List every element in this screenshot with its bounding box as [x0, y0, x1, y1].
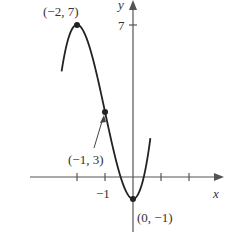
y-axis-label: y [116, 0, 124, 12]
x-axis-label: x [212, 186, 219, 201]
point-inflection [102, 109, 108, 115]
label-local-max: (−2, 7) [43, 4, 79, 19]
y-tick-label-7: 7 [118, 18, 125, 33]
function-graph: (−2, 7) (−1, 3) (0, −1) 7 −1 y x [0, 0, 230, 234]
label-inflection: (−1, 3) [68, 152, 104, 167]
label-local-min: (0, −1) [137, 210, 173, 225]
x-tick-label-neg1: −1 [96, 186, 110, 201]
point-local-max [74, 22, 80, 28]
point-local-min [130, 196, 136, 202]
y-axis-arrow-icon [129, 0, 137, 10]
x-axis-arrow-icon [214, 173, 224, 181]
